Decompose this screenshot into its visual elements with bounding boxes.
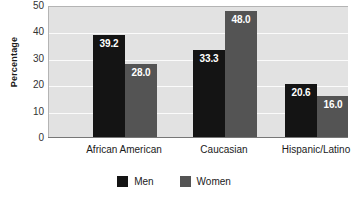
bar-women-2[interactable]: 48.0	[225, 11, 257, 138]
bar-value-label: 33.3	[193, 53, 225, 64]
y-axis-tick-label: 50	[33, 1, 44, 11]
y-axis-tick-label: 40	[33, 27, 44, 37]
legend-item-men[interactable]: Men	[117, 176, 153, 187]
bar-men-1[interactable]: 39.2	[93, 35, 125, 138]
bar-value-label: 16.0	[317, 99, 348, 110]
bar-value-label: 48.0	[225, 14, 257, 25]
bar-value-label: 28.0	[125, 67, 157, 78]
bar-men-2[interactable]: 33.3	[193, 50, 225, 138]
bar-group: 20.616.0	[285, 7, 348, 138]
bar-group: 33.348.0	[193, 7, 257, 138]
y-axis-tick-label: 0	[38, 133, 44, 143]
y-axis-tick-label: 20	[33, 80, 44, 90]
y-axis-title: Percentage	[9, 17, 19, 107]
x-axis-category-label: Hispanic/Latino	[258, 144, 355, 155]
plot-area: 39.228.033.348.020.616.0	[48, 6, 348, 138]
bar-women-1[interactable]: 28.0	[125, 64, 157, 138]
x-axis-category-labels: African AmericanCaucasianHispanic/Latino	[48, 144, 348, 160]
legend-item-women[interactable]: Women	[180, 176, 231, 187]
bar-value-label: 39.2	[93, 38, 125, 49]
legend-swatch-icon	[117, 176, 128, 187]
x-axis-line	[48, 137, 348, 138]
legend-label: Women	[197, 176, 231, 187]
legend-swatch-icon	[180, 176, 191, 187]
legend: MenWomen	[0, 176, 348, 187]
y-axis-tick-labels: 50403020100	[22, 6, 44, 138]
bar-women-3[interactable]: 16.0	[317, 96, 348, 138]
y-axis-tick-label: 30	[33, 54, 44, 64]
bar-group: 39.228.0	[93, 7, 157, 138]
bars-layer: 39.228.033.348.020.616.0	[49, 7, 348, 138]
y-axis-tick-label: 10	[33, 107, 44, 117]
legend-label: Men	[134, 176, 153, 187]
bar-value-label: 20.6	[285, 87, 317, 98]
bar-men-3[interactable]: 20.6	[285, 84, 317, 138]
x-axis-category-label: African American	[66, 144, 182, 155]
